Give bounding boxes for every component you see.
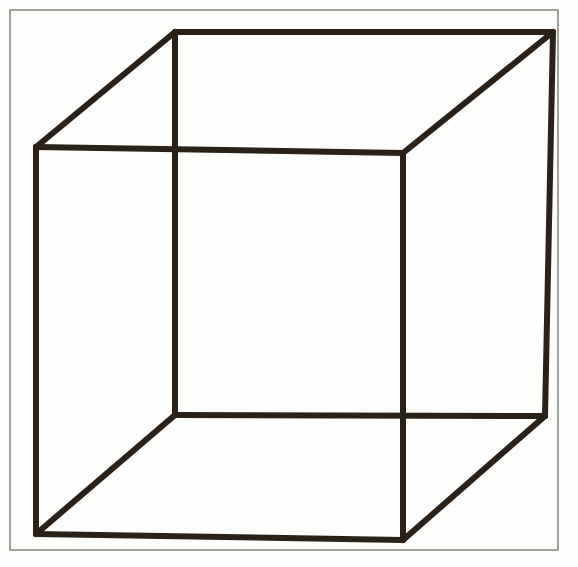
necker-cube-figure — [0, 0, 578, 567]
figure-page — [0, 0, 578, 567]
cube-edge-back-bottom — [175, 415, 545, 416]
